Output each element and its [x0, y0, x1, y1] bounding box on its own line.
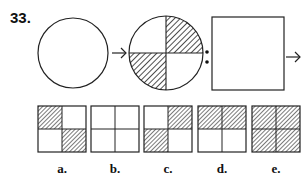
circle-figure-2	[129, 16, 203, 90]
option-b-figure[interactable]	[91, 106, 139, 152]
colon-separator	[205, 50, 209, 64]
option-c-figure[interactable]	[144, 106, 192, 152]
circle-figure-1	[38, 18, 108, 88]
option-c-label[interactable]: c.	[143, 161, 193, 177]
option-a-figure[interactable]	[38, 106, 86, 152]
option-d-label[interactable]: d.	[197, 161, 247, 177]
arrow-icon	[112, 48, 126, 58]
option-a-label[interactable]: a.	[37, 161, 87, 177]
option-b-label[interactable]: b.	[90, 161, 140, 177]
square-figure	[212, 17, 284, 90]
arrow-icon	[286, 52, 300, 62]
option-e-figure[interactable]	[252, 106, 300, 152]
option-e-label[interactable]: e.	[251, 161, 301, 177]
option-d-figure[interactable]	[198, 106, 246, 152]
analogy-figure	[0, 0, 306, 187]
